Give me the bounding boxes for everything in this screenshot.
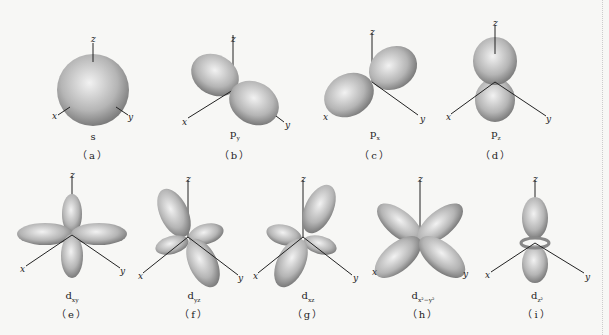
svg-text:y: y xyxy=(119,266,126,276)
label-dz2: dz² xyxy=(507,290,567,303)
svg-text:y: y xyxy=(462,269,469,279)
orbital-dxy: zxy xyxy=(17,170,127,278)
svg-text:z: z xyxy=(90,34,96,44)
caption-g: （g） xyxy=(278,306,338,321)
svg-text:y: y xyxy=(237,273,244,283)
label-py: py xyxy=(205,128,265,141)
orbital-px: zxy xyxy=(316,27,426,126)
orbital-dxz: zxy xyxy=(253,174,359,292)
svg-text:z: z xyxy=(492,18,498,28)
caption-c: （c） xyxy=(345,147,405,162)
svg-text:y: y xyxy=(584,272,591,282)
svg-text:x: x xyxy=(20,264,25,274)
svg-text:y: y xyxy=(419,114,426,124)
svg-text:x: x xyxy=(138,271,143,281)
orbital-pz: zxy xyxy=(446,18,552,124)
label-dxz: dxz xyxy=(278,290,338,303)
orbital-s: zxy xyxy=(52,34,134,126)
orbital-dz2: zxy xyxy=(485,174,591,283)
caption-f: （f） xyxy=(164,306,224,321)
svg-text:z: z xyxy=(230,34,236,44)
svg-text:x: x xyxy=(52,111,57,121)
orbitals-svg: zxy zxy zxy zxy xyxy=(0,0,609,335)
orbital-py: zxy xyxy=(182,34,291,134)
caption-i: （i） xyxy=(507,306,567,321)
orbital-diagram: zxy zxy zxy zxy xyxy=(0,0,609,335)
label-s: s xyxy=(63,131,123,142)
orbital-dx2-y2: zxy xyxy=(368,174,473,286)
svg-text:y: y xyxy=(127,112,134,122)
label-pz: pz xyxy=(466,128,526,141)
orbital-dyz: zxy xyxy=(138,174,244,292)
label-dyz: dyz xyxy=(164,290,224,303)
caption-b: （b） xyxy=(205,147,265,162)
svg-text:y: y xyxy=(352,273,359,283)
svg-text:z: z xyxy=(369,27,375,37)
svg-text:z: z xyxy=(69,170,75,180)
caption-h: （h） xyxy=(393,306,453,321)
svg-text:x: x xyxy=(372,267,377,277)
svg-text:x: x xyxy=(446,112,451,122)
caption-d: （d） xyxy=(466,147,526,162)
label-dxy: dxy xyxy=(42,290,102,303)
svg-text:x: x xyxy=(323,112,328,122)
label-px: px xyxy=(345,128,405,141)
label-dx2-y2: dx²−y² xyxy=(393,290,453,303)
caption-e: （e） xyxy=(42,306,102,321)
svg-text:z: z xyxy=(185,174,191,184)
svg-text:x: x xyxy=(182,117,187,127)
caption-a: （a） xyxy=(63,147,123,162)
svg-text:x: x xyxy=(253,271,258,281)
svg-text:y: y xyxy=(545,114,552,124)
svg-text:z: z xyxy=(532,174,538,184)
svg-text:z: z xyxy=(300,174,306,184)
page-edge xyxy=(602,0,609,335)
svg-text:x: x xyxy=(485,270,490,280)
svg-text:y: y xyxy=(284,120,291,130)
svg-text:z: z xyxy=(417,174,423,184)
